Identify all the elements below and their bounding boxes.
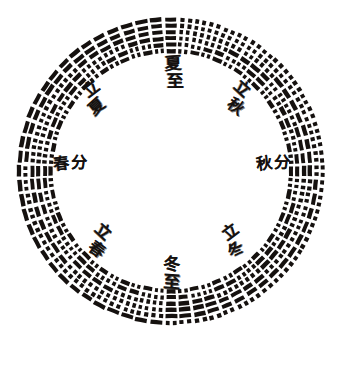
- yin-line-right: [237, 32, 242, 38]
- yin-line-left: [304, 199, 309, 203]
- yang-line: [166, 308, 177, 312]
- yin-line-left: [223, 275, 228, 280]
- yin-line-right: [144, 306, 148, 310]
- yin-line-right: [23, 173, 27, 177]
- yin-line-left: [64, 110, 69, 115]
- yin-line-right: [100, 275, 105, 281]
- yin-line-right: [180, 24, 184, 29]
- yin-line-left: [268, 91, 273, 96]
- yin-line-left: [84, 287, 90, 293]
- yin-line-right: [130, 309, 135, 314]
- yin-line-left: [307, 186, 312, 190]
- yin-line-right: [218, 38, 223, 44]
- yin-line-left: [197, 46, 201, 51]
- yang-line: [143, 50, 153, 56]
- yin-line-right: [255, 268, 261, 274]
- yin-line-right: [55, 112, 60, 117]
- yang-line: [19, 136, 26, 148]
- yin-line-right: [47, 222, 52, 227]
- yin-line-left: [312, 144, 317, 149]
- yin-line-left: [37, 125, 42, 130]
- yin-line-left: [38, 233, 43, 238]
- yang-line: [67, 232, 76, 242]
- yin-line-right: [310, 137, 315, 142]
- yin-line-left: [216, 24, 221, 30]
- yin-line-right: [42, 160, 47, 164]
- yang-line: [93, 33, 105, 42]
- yin-line-left: [74, 243, 79, 248]
- yin-line-left: [214, 30, 219, 35]
- yin-line-right: [72, 269, 78, 275]
- yin-line-left: [42, 127, 47, 132]
- yin-line-left: [288, 74, 294, 80]
- yin-line-left: [289, 223, 295, 228]
- yin-line-right: [231, 44, 236, 50]
- yin-line-left: [246, 268, 251, 273]
- yin-line-left: [237, 47, 242, 53]
- yin-line-left: [186, 30, 190, 35]
- yin-line-right: [246, 45, 251, 50]
- yin-line-right: [194, 26, 198, 30]
- yin-line-right: [193, 31, 198, 36]
- yin-line-right: [303, 206, 308, 211]
- yin-line-right: [221, 33, 226, 38]
- yang-line: [212, 56, 223, 64]
- yin-line-left: [95, 272, 100, 278]
- yin-line-right: [137, 284, 141, 289]
- yin-line-left: [184, 50, 188, 55]
- yang-line: [194, 311, 206, 318]
- yin-line-left: [47, 115, 52, 120]
- yin-line-left: [281, 97, 287, 102]
- yin-line-right: [187, 319, 192, 323]
- yin-line-left: [90, 69, 95, 75]
- summer-solstice-label: 夏至: [162, 54, 185, 89]
- yin-line-left: [291, 90, 296, 95]
- yin-line-right: [27, 200, 32, 204]
- yang-line: [240, 56, 251, 65]
- yin-line-right: [58, 83, 64, 88]
- yin-line-right: [234, 284, 239, 289]
- yin-line-right: [61, 101, 66, 106]
- yang-line: [26, 106, 34, 118]
- yin-line-right: [264, 68, 270, 74]
- yin-line-right: [315, 209, 320, 214]
- winter-solstice-char-2: 至: [162, 273, 182, 291]
- yin-line-left: [259, 62, 265, 68]
- yang-line: [34, 206, 41, 217]
- yin-line-right: [24, 187, 28, 191]
- yang-line: [179, 294, 188, 299]
- yin-line-right: [35, 131, 40, 136]
- yin-line-right: [312, 122, 317, 127]
- yang-line: [58, 273, 70, 285]
- yin-line-right: [284, 201, 289, 205]
- hexagram-circle-diagram: 夏至立秋秋分立冬冬至立春春分立夏: [0, 0, 350, 391]
- yin-line-left: [292, 122, 297, 127]
- yin-line-left: [154, 295, 158, 300]
- yin-line-left: [275, 114, 280, 119]
- yin-line-left: [278, 63, 284, 69]
- yang-line: [295, 112, 303, 123]
- yang-line: [25, 137, 31, 150]
- yin-line-right: [103, 52, 108, 58]
- yin-line-left: [307, 229, 312, 234]
- yin-line-right: [206, 35, 211, 40]
- yang-line: [125, 35, 136, 42]
- yin-line-left: [55, 88, 60, 93]
- yang-line: [69, 284, 80, 294]
- spring-equinox-char-1: 春: [52, 155, 70, 173]
- yang-line: [190, 50, 199, 56]
- yin-line-right: [307, 124, 312, 129]
- yin-line-left: [236, 275, 241, 280]
- yin-line-right: [268, 283, 274, 289]
- yin-line-right: [208, 289, 212, 294]
- yin-line-right: [197, 292, 201, 296]
- yang-line: [41, 204, 48, 214]
- yin-line-right: [288, 261, 294, 267]
- yin-line-left: [61, 223, 66, 228]
- yang-line: [304, 139, 310, 150]
- yin-line-right: [51, 94, 56, 99]
- yin-line-right: [94, 263, 99, 268]
- yin-line-right: [54, 206, 59, 210]
- yin-line-left: [202, 20, 207, 25]
- yin-line-right: [82, 278, 88, 284]
